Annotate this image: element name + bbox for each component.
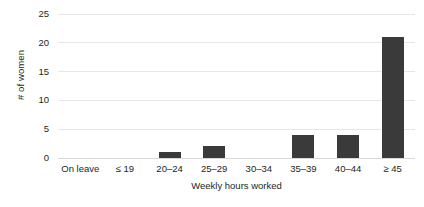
bar-slot	[326, 14, 371, 158]
y-axis-tick-label: 20	[27, 38, 49, 48]
plot-area: 0510152025	[58, 14, 415, 158]
y-axis-title: # of women	[14, 0, 28, 155]
bar-slot	[58, 14, 103, 158]
y-axis-tick-label: 25	[27, 9, 49, 19]
bar-chart: # of women 0510152025 On leave≤ 1920–242…	[0, 0, 424, 207]
bar-slot	[103, 14, 148, 158]
bar	[337, 135, 359, 158]
bar-slot	[192, 14, 237, 158]
bar	[203, 146, 225, 158]
bar-slot	[147, 14, 192, 158]
x-axis-tick-label: 20–24	[147, 162, 192, 176]
bar-slot	[237, 14, 282, 158]
y-axis-tick-label: 5	[27, 124, 49, 134]
bar	[292, 135, 314, 158]
x-axis-tick-label: On leave	[58, 162, 103, 176]
bar-slot	[281, 14, 326, 158]
x-axis-tick-label: 30–34	[237, 162, 282, 176]
x-axis-tick-label: 25–29	[192, 162, 237, 176]
x-axis-tick-label: 35–39	[281, 162, 326, 176]
y-axis-tick-label: 15	[27, 67, 49, 77]
x-axis-tick-label: ≥ 45	[370, 162, 415, 176]
bar-slot	[370, 14, 415, 158]
x-axis-title: Weekly hours worked	[58, 180, 415, 192]
y-axis-tick-label: 0	[27, 153, 49, 163]
x-axis-tick-label: 40–44	[326, 162, 371, 176]
x-axis-ticks: On leave≤ 1920–2425–2930–3435–3940–44≥ 4…	[58, 162, 415, 176]
y-axis-tick-label: 10	[27, 95, 49, 105]
bar-series	[58, 14, 415, 158]
x-axis-tick-label: ≤ 19	[103, 162, 148, 176]
bar	[382, 37, 404, 158]
bar	[159, 152, 181, 158]
